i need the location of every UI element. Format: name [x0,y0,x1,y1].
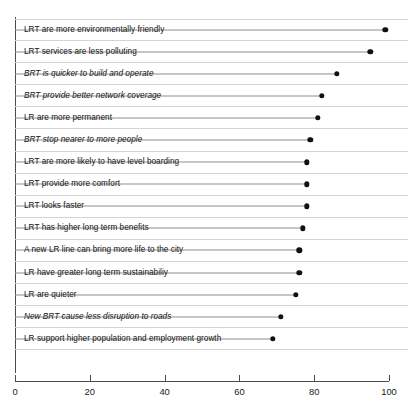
chart-row: LRT are more environmentally friendly [15,19,408,41]
chart-row: LRT services are less polluting [15,41,408,63]
data-point-dot [368,49,373,54]
chart-container: LRT are more environmentally friendlyLRT… [0,0,408,411]
row-label: LR are quieter [24,290,77,299]
x-axis-tick-label: 40 [159,386,169,397]
chart-row: BRT stop nearer to more people [15,129,408,151]
data-point-dot [300,226,305,231]
x-axis-tick [90,375,91,381]
chart-row: LRT provide more comfort [15,174,408,196]
x-axis-tick [314,375,315,381]
data-point-dot [278,314,283,319]
chart-row: New BRT cause less disruption to roads [15,306,408,328]
data-point-dot [293,292,298,297]
x-axis-tick-label: 60 [234,386,244,397]
x-axis-tick-label: 100 [381,386,397,397]
row-label: LR support higher population and employm… [24,334,221,343]
data-point-dot [315,115,320,120]
x-axis-tick [15,375,16,381]
x-axis-tick-label: 80 [309,386,319,397]
x-axis-tick [389,375,390,381]
row-label: BRT is quicker to build and operate [24,69,154,78]
chart-row: LR support higher population and employm… [15,328,408,350]
row-label: LRT has higher long term benefits [24,224,149,233]
x-axis-line [15,381,389,382]
chart-row: LRT looks faster [15,196,408,218]
chart-row: A new LR line can bring more life to the… [15,240,408,262]
row-label: New BRT cause less disruption to roads [24,312,171,321]
x-axis-tick-label: 0 [12,386,17,397]
data-point-dot [383,27,388,32]
chart-row: LR are quieter [15,284,408,306]
x-axis-tick-label: 20 [85,386,95,397]
row-label: BRT provide better network coverage [24,91,161,100]
chart-row: BRT provide better network coverage [15,85,408,107]
data-point-dot [304,159,309,164]
row-label: LR are more permanent [24,113,112,122]
row-label: LRT services are less polluting [24,47,137,56]
row-label: LRT are more environmentally friendly [24,26,164,35]
chart-row: BRT is quicker to build and operate [15,63,408,85]
row-label: LRT are more likely to have level boardi… [24,158,179,167]
data-point-dot [319,93,324,98]
data-point-dot [297,270,302,275]
category-rows: LRT are more environmentally friendlyLRT… [15,19,408,350]
row-label: LRT provide more comfort [24,180,120,189]
row-label: LRT looks faster [24,202,84,211]
x-axis-tick [165,375,166,381]
data-point-dot [308,137,313,142]
chart-row: LRT are more likely to have level boardi… [15,152,408,174]
data-point-dot [304,204,309,209]
data-point-dot [270,336,275,341]
x-axis-tick [239,375,240,381]
row-label: BRT stop nearer to more people [24,136,142,145]
row-label: A new LR line can bring more life to the… [24,246,183,255]
data-point-dot [297,248,302,253]
data-point-dot [334,71,339,76]
chart-row: LRT has higher long term benefits [15,218,408,240]
plot-area: LRT are more environmentally friendlyLRT… [0,0,408,411]
chart-row: LR have greater long term sustainabiliy [15,262,408,284]
data-point-dot [304,182,309,187]
row-label: LR have greater long term sustainabiliy [24,268,168,277]
chart-row: LR are more permanent [15,107,408,129]
